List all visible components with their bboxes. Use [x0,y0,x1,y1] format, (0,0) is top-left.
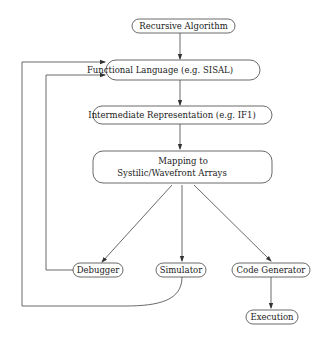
node-label: Functional Language (e.g. SISAL) [87,65,233,75]
node-functional-language: Functional Language (e.g. SISAL) [87,60,260,80]
node-intermediate-representation: Intermediate Representation (e.g. IF1) [88,106,272,124]
node-label-line1: Mapping to [158,156,208,166]
node-label: Execution [251,312,295,322]
node-label: Simulator [160,265,203,275]
node-code-generator: Code Generator [232,263,310,277]
node-label: Intermediate Representation (e.g. IF1) [88,110,255,120]
node-label: Code Generator [237,265,307,275]
node-label: Recursive Algorithm [139,21,228,31]
flow-diagram: Recursive Algorithm Functional Language … [0,0,323,340]
node-recursive-algorithm: Recursive Algorithm [132,19,235,33]
node-debugger: Debugger [73,263,123,277]
node-mapping: Mapping to Systilic/Wavefront Arrays [93,151,272,183]
edge-mapping-to-debugger [102,185,172,262]
node-label-line2: Systilic/Wavefront Arrays [117,168,227,178]
edge-mapping-to-codegen [194,185,271,261]
node-label: Debugger [77,265,121,275]
node-execution: Execution [246,310,298,324]
node-simulator: Simulator [156,263,206,277]
